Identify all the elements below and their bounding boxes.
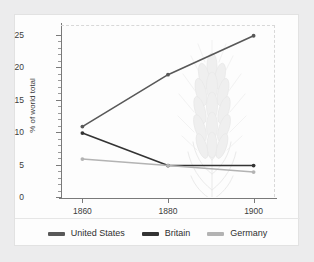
plot-area xyxy=(61,25,275,197)
legend-swatch-icon xyxy=(48,232,65,236)
y-tick-label: 20 xyxy=(0,63,24,72)
y-tick-label: 5 xyxy=(0,161,24,170)
y-axis-label: % of world total xyxy=(28,58,37,154)
legend-swatch-icon xyxy=(142,232,159,236)
data-point xyxy=(252,170,256,174)
y-tick-label: 15 xyxy=(0,96,24,105)
chart-legend: United StatesBritainGermany xyxy=(15,218,300,248)
plot-inner xyxy=(61,26,274,197)
chart-card: % of world total 0510152025 186018801900 xyxy=(14,14,299,246)
series-line xyxy=(82,36,253,127)
data-point xyxy=(252,164,256,168)
chart-screenshot: % of world total 0510152025 186018801900 xyxy=(0,0,314,262)
data-point xyxy=(166,164,170,168)
legend-label: Britain xyxy=(165,229,191,238)
legend-label: Germany xyxy=(230,229,267,238)
x-tick xyxy=(254,198,255,203)
data-point xyxy=(81,125,85,129)
x-tick xyxy=(82,198,83,203)
x-tick-label: 1900 xyxy=(234,207,274,216)
y-tick-label: 0 xyxy=(0,193,24,202)
y-tick-label: 25 xyxy=(0,31,24,40)
y-tick-label: 10 xyxy=(0,128,24,137)
y-tick xyxy=(56,197,61,198)
legend-item[interactable]: Germany xyxy=(207,229,267,238)
data-point xyxy=(81,131,85,135)
x-tick xyxy=(168,198,169,203)
data-point xyxy=(81,157,85,161)
legend-label: United States xyxy=(71,229,125,238)
legend-item[interactable]: Britain xyxy=(142,229,191,238)
data-point xyxy=(252,34,256,38)
legend-item[interactable]: United States xyxy=(48,229,125,238)
x-tick-label: 1860 xyxy=(62,207,102,216)
series-lines xyxy=(61,26,274,197)
legend-swatch-icon xyxy=(207,232,224,236)
data-point xyxy=(166,73,170,77)
x-tick-label: 1880 xyxy=(148,207,188,216)
chart-area: % of world total 0510152025 186018801900 xyxy=(15,15,300,217)
